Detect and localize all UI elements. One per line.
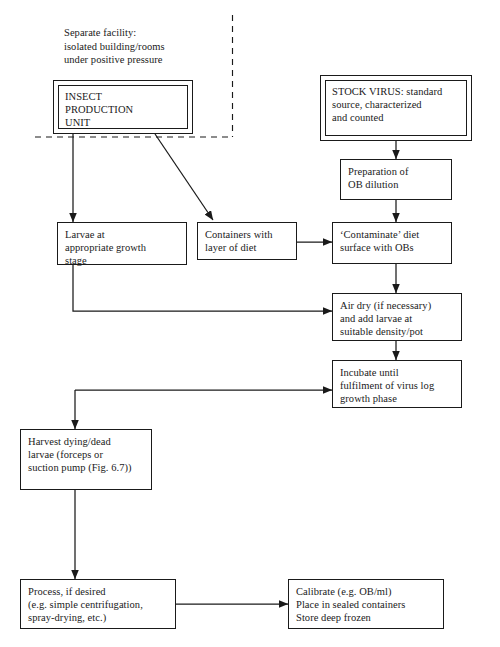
- contaminate-diet-surface-label: ‘Contaminate’ diet surface with OBs: [333, 223, 419, 254]
- insect-production-unit[interactable]: INSECT PRODUCTION UNIT: [53, 80, 193, 134]
- containers-with-diet-label: Containers with layer of diet: [198, 223, 273, 254]
- larvae-at-growth-stage-label: Larvae at appropriate growth stage: [58, 223, 146, 268]
- insect-production-unit-inner: INSECT PRODUCTION UNIT: [58, 85, 188, 129]
- contaminate-diet-surface[interactable]: ‘Contaminate’ diet surface with OBs: [332, 222, 452, 264]
- calibrate-store-label: Calibrate (e.g. OB/ml) Place in sealed c…: [289, 580, 405, 625]
- connector-ipu-to-containers: [155, 134, 213, 220]
- preparation-of-ob-dilution[interactable]: Preparation of OB dilution: [340, 159, 452, 200]
- insect-production-unit-label: INSECT PRODUCTION UNIT: [59, 86, 133, 130]
- larvae-at-growth-stage[interactable]: Larvae at appropriate growth stage: [57, 222, 187, 265]
- process-if-desired-label: Process, if desired (e.g. simple centrif…: [21, 580, 143, 625]
- connector-larvae-to-airdry: [73, 265, 332, 311]
- containers-with-diet[interactable]: Containers with layer of diet: [197, 222, 297, 260]
- air-dry-add-larvae-label: Air dry (if necessary) and add larvae at…: [333, 294, 431, 339]
- stock-virus[interactable]: STOCK VIRUS: standard source, characteri…: [320, 75, 472, 141]
- air-dry-add-larvae[interactable]: Air dry (if necessary) and add larvae at…: [332, 293, 462, 341]
- harvest-dying-dead-larvae-label: Harvest dying/dead larvae (forceps or su…: [21, 430, 132, 475]
- flowchart-figure: Separate facility: isolated building/roo…: [0, 0, 500, 647]
- stock-virus-label: STOCK VIRUS: standard source, characteri…: [326, 81, 442, 125]
- calibrate-store[interactable]: Calibrate (e.g. OB/ml) Place in sealed c…: [288, 579, 444, 629]
- stock-virus-inner: STOCK VIRUS: standard source, characteri…: [325, 80, 467, 136]
- preparation-of-ob-dilution-label: Preparation of OB dilution: [341, 160, 408, 191]
- process-if-desired[interactable]: Process, if desired (e.g. simple centrif…: [20, 579, 176, 629]
- incubate-until-log-phase[interactable]: Incubate until fulfilment of virus log g…: [332, 360, 462, 408]
- incubate-until-log-phase-label: Incubate until fulfilment of virus log g…: [333, 361, 434, 406]
- separate-facility-caption: Separate facility: isolated building/roo…: [64, 26, 244, 67]
- harvest-dying-dead-larvae[interactable]: Harvest dying/dead larvae (forceps or su…: [20, 429, 152, 490]
